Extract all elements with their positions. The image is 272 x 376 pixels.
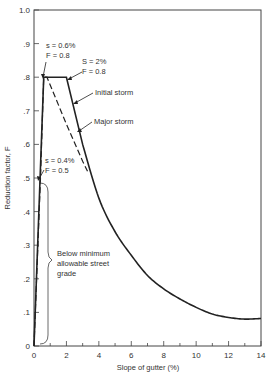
svg-text:S = 2%: S = 2%	[82, 57, 107, 66]
x-axis-title: Slope of gutter (%)	[117, 363, 180, 372]
annotation-s04: s = 0.4% F = 0.5	[37, 156, 75, 181]
x-axis: 02468101214	[32, 341, 266, 360]
chart-canvas: 0.1.2.3.4.5.6.7.8.91.0 02468101214 Slope…	[0, 0, 272, 376]
initial-storm-line	[34, 77, 261, 346]
svg-text:Initial storm: Initial storm	[95, 88, 133, 97]
arrowhead-icon	[73, 100, 78, 104]
annotation-s2: S = 2% F = 0.8	[67, 57, 107, 80]
x-tick-label: 14	[257, 351, 266, 360]
x-tick-label: 2	[64, 351, 69, 360]
annotation-initial-storm: Initial storm	[73, 88, 133, 104]
x-tick-label: 10	[192, 351, 201, 360]
y-tick-label: .8	[23, 73, 30, 82]
y-tick-label: .2	[23, 275, 30, 284]
arrowhead-icon	[67, 76, 72, 80]
y-tick-label: .1	[23, 308, 30, 317]
annotation-major-storm: Major storm	[77, 117, 134, 132]
y-tick-label: .4	[23, 208, 30, 217]
x-tick-label: 8	[161, 351, 166, 360]
y-tick-label: .3	[23, 241, 30, 250]
x-tick-label: 12	[224, 351, 233, 360]
y-tick-label: .5	[23, 174, 30, 183]
y-tick-label: .9	[23, 40, 30, 49]
y-axis-title: Reduction factor, F	[3, 146, 12, 209]
curly-brace-icon	[40, 183, 52, 344]
x-tick-label: 6	[129, 351, 134, 360]
y-tick-label: 0	[26, 342, 31, 351]
y-tick-label: .6	[23, 140, 30, 149]
svg-text:grade: grade	[57, 269, 76, 278]
y-tick-label: 1.0	[19, 6, 31, 15]
annotation-below-minimum: Below minimum allowable street grade	[40, 183, 110, 344]
svg-text:s = 0.6%: s = 0.6%	[46, 41, 76, 50]
plot-frame	[34, 10, 261, 346]
major-storm-line	[34, 77, 88, 346]
svg-text:allowable street: allowable street	[57, 259, 110, 268]
svg-text:s = 0.4%: s = 0.4%	[45, 156, 75, 165]
svg-text:F = 0.8: F = 0.8	[82, 67, 106, 76]
svg-text:F = 0.8: F = 0.8	[46, 51, 70, 60]
x-tick-label: 4	[97, 351, 102, 360]
y-tick-label: .7	[23, 107, 30, 116]
annotation-s06: s = 0.6% F = 0.8	[41, 41, 76, 79]
svg-text:Below minimum: Below minimum	[57, 249, 110, 258]
svg-text:Major storm: Major storm	[94, 117, 134, 126]
x-tick-label: 0	[32, 351, 37, 360]
svg-text:F = 0.5: F = 0.5	[45, 166, 69, 175]
